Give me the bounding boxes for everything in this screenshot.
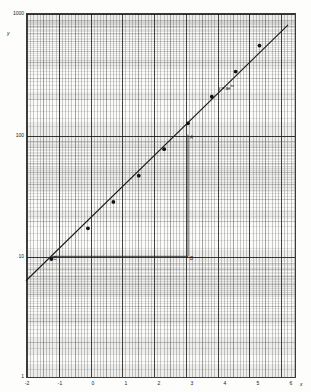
- paper-shade-band: [27, 166, 295, 192]
- gridline-horizontal: [27, 14, 295, 15]
- gridline-horizontal-sub: [27, 329, 295, 330]
- gridline-vertical: [218, 14, 219, 377]
- gridline-vertical: [284, 14, 285, 377]
- point-a-label: A: [190, 136, 193, 141]
- y-tick-1: 1: [21, 374, 24, 379]
- gridline-vertical: [268, 14, 269, 377]
- gridline-horizontal-sub: [27, 166, 295, 167]
- gridline-horizontal-sub: [27, 311, 295, 312]
- gridline-vertical: [195, 14, 196, 377]
- gridline-horizontal-sub: [27, 159, 295, 160]
- gridline-vertical: [189, 14, 190, 377]
- gridline-vertical: [272, 14, 273, 377]
- vertical-gridlines: [27, 14, 295, 377]
- gridline-horizontal-sub: [27, 94, 295, 95]
- gridline-horizontal-sub: [27, 27, 295, 28]
- gridline-horizontal-sub: [27, 24, 295, 25]
- gridline-horizontal-sub: [27, 226, 295, 227]
- gridline-vertical: [233, 14, 234, 377]
- paper-shade-band: [27, 14, 295, 28]
- gridline-horizontal-sub: [27, 268, 295, 269]
- gridline-vertical: [164, 14, 165, 377]
- gridline-horizontal-sub: [27, 275, 295, 276]
- gridline-horizontal-sub: [27, 196, 295, 197]
- gridline-horizontal-sub: [27, 158, 295, 159]
- gridline-vertical: [84, 14, 85, 377]
- gridline-vertical: [59, 14, 60, 377]
- gridline-horizontal: [27, 184, 295, 185]
- gridline-horizontal-sub: [27, 182, 295, 183]
- gridline-vertical: [135, 14, 136, 377]
- gridline-horizontal-sub: [27, 118, 295, 119]
- x-tick-m1: -1: [58, 381, 62, 386]
- gridline-horizontal-sub: [27, 149, 295, 150]
- y-tick-1000: 1000: [13, 11, 24, 16]
- paper-shade-band: [27, 364, 295, 378]
- gridline-horizontal-sub: [27, 325, 295, 326]
- gridline-vertical: [145, 14, 146, 377]
- gridline-horizontal-sub: [27, 60, 295, 61]
- gridline-horizontal-sub: [27, 179, 295, 180]
- point-b-label: B: [190, 257, 193, 262]
- gridline-vertical: [94, 14, 95, 377]
- gridline-horizontal: [27, 269, 295, 270]
- gridline-horizontal-sub: [27, 161, 295, 162]
- gridline-horizontal: [27, 51, 295, 52]
- paper-shade-band: [27, 250, 295, 262]
- gridline-horizontal-sub: [27, 45, 295, 46]
- gridline-horizontal-sub: [27, 111, 295, 112]
- gridline-horizontal-sub: [27, 292, 295, 293]
- gridline-vertical: [186, 14, 187, 377]
- gridline-vertical: [230, 14, 231, 377]
- gridline-vertical: [253, 14, 254, 377]
- gridline-vertical: [224, 14, 225, 377]
- gridline-vertical: [37, 14, 38, 377]
- gridline-horizontal-sub: [27, 290, 295, 291]
- gridline-horizontal-sub: [27, 233, 295, 234]
- equation-base: y = ae: [218, 86, 230, 91]
- gridline-horizontal-sub: [27, 21, 295, 22]
- gridline-horizontal-sub: [27, 34, 295, 35]
- paper-shade-band: [27, 92, 295, 99]
- paper-shade-band: [27, 122, 295, 144]
- gridline-horizontal-sub: [27, 296, 295, 297]
- gridline-vertical: [160, 14, 161, 377]
- gridline-horizontal-sub: [27, 74, 295, 75]
- gridline-horizontal-sub: [27, 318, 295, 319]
- gridline-vertical: [176, 14, 177, 377]
- y-axis-name: y: [7, 30, 10, 36]
- gridline-horizontal-sub: [27, 348, 295, 349]
- gridline-horizontal-sub: [27, 164, 295, 165]
- semilog-graph-figure: 1000 100 10 1 y x -2 -1 0 1 2 3 4 5 6 A …: [0, 0, 311, 392]
- gridline-vertical: [116, 14, 117, 377]
- gridline-horizontal-sub: [27, 105, 295, 106]
- gridline-vertical: [40, 14, 41, 377]
- gridline-horizontal-sub: [27, 156, 295, 157]
- gridline-horizontal: [27, 33, 295, 34]
- gridline-vertical: [183, 14, 184, 377]
- gridline-vertical: [65, 14, 66, 377]
- gridline-horizontal-sub: [27, 49, 295, 50]
- paper-shade-band: [27, 276, 295, 296]
- gridline-vertical: [221, 14, 222, 377]
- gridline-horizontal-sub: [27, 31, 295, 32]
- gridline-vertical: [27, 14, 28, 377]
- point-c-label: C: [53, 257, 56, 262]
- gridline-horizontal-sub: [27, 270, 295, 271]
- gridline-vertical: [52, 14, 53, 377]
- gridline-horizontal: [27, 276, 295, 277]
- gridline-horizontal-sub: [27, 126, 295, 127]
- gridline-horizontal: [27, 141, 295, 142]
- y-axis-tick-labels: 1000 100 10 1: [0, 0, 24, 392]
- gridline-horizontal-sub: [27, 174, 295, 175]
- gridline-horizontal-sub: [27, 85, 295, 86]
- gridline-vertical: [243, 14, 244, 377]
- y-tick-10: 10: [18, 254, 24, 259]
- gridline-vertical: [287, 14, 288, 377]
- gridline-horizontal-sub: [27, 211, 295, 212]
- gridline-horizontal: [27, 321, 295, 322]
- gridline-horizontal-sub: [27, 286, 295, 287]
- gridline-vertical: [275, 14, 276, 377]
- gridline-vertical: [91, 14, 92, 377]
- gridline-horizontal: [27, 257, 295, 258]
